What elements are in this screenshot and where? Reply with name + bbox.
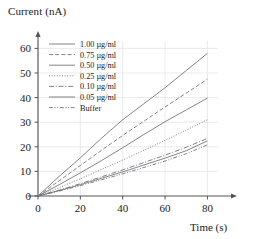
svg-text:40: 40 xyxy=(117,202,129,214)
legend-label: 0.75 µg/ml xyxy=(80,51,117,60)
svg-text:0: 0 xyxy=(35,202,41,214)
axes xyxy=(28,31,237,199)
legend-label: 1.00 µg/ml xyxy=(80,40,117,49)
plot-area: 0204060800102030405060 1.00 µg/ml0.75 µg… xyxy=(0,0,261,239)
legend-label: 0.10 µg/ml xyxy=(80,82,117,91)
svg-text:60: 60 xyxy=(160,202,172,214)
svg-text:80: 80 xyxy=(202,202,214,214)
svg-text:20: 20 xyxy=(75,202,87,214)
legend-label: Buffer xyxy=(80,104,101,113)
axis-ticks xyxy=(35,48,208,199)
svg-text:30: 30 xyxy=(20,116,32,128)
legend-label: 0.50 µg/ml xyxy=(80,61,117,70)
svg-text:0: 0 xyxy=(26,190,32,202)
svg-text:10: 10 xyxy=(20,165,32,177)
legend: 1.00 µg/ml0.75 µg/ml0.50 µg/ml0.25 µg/ml… xyxy=(49,40,117,113)
legend-label: 0.25 µg/ml xyxy=(80,72,117,81)
legend-label: 0.05 µg/ml xyxy=(80,93,117,102)
svg-text:40: 40 xyxy=(20,92,32,104)
svg-text:50: 50 xyxy=(20,67,32,79)
svg-text:20: 20 xyxy=(20,141,32,153)
svg-text:60: 60 xyxy=(20,42,32,54)
chart-figure: Current (nA) Time (s) 020406080010203040… xyxy=(0,0,261,239)
gridlines xyxy=(38,41,218,196)
